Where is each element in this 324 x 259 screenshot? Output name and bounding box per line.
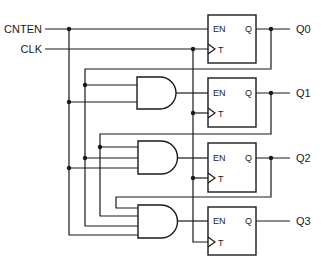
q-pin-label: Q [245, 24, 252, 34]
q-pin-label: Q [245, 88, 252, 98]
flipflop-2: EN Q T [208, 143, 290, 192]
junction-dot [83, 156, 87, 160]
junction-dot [269, 91, 273, 95]
flipflop-3: EN Q T [208, 207, 290, 255]
en-pin-label: EN [213, 216, 226, 226]
junction-dot [67, 166, 71, 170]
output-label-q2: Q2 [296, 152, 311, 164]
junction-dot [191, 176, 195, 180]
input-label-cnten: CNTEN [4, 23, 42, 35]
flipflop-1: EN Q T [208, 78, 290, 127]
and-gate-3 [138, 205, 208, 238]
and-gate-2 [138, 141, 208, 174]
t-pin-label: T [218, 45, 224, 55]
junction-dot [67, 27, 71, 31]
junction-dot [269, 156, 273, 160]
junction-dot [67, 100, 71, 104]
junction-dot [269, 27, 273, 31]
junction-dot [191, 111, 195, 115]
junction-dot [83, 83, 87, 87]
t-pin-label: T [218, 174, 224, 184]
en-pin-label: EN [213, 153, 226, 163]
output-label-q1: Q1 [296, 87, 311, 99]
and-gate-1 [137, 77, 208, 109]
output-label-q0: Q0 [296, 23, 311, 35]
cnten-net [45, 27, 208, 235]
junction-dot [98, 145, 102, 149]
en-pin-label: EN [213, 88, 226, 98]
output-label-q3: Q3 [296, 215, 311, 227]
q-pin-label: Q [245, 216, 252, 226]
en-pin-label: EN [213, 24, 226, 34]
input-label-clk: CLK [21, 43, 43, 55]
t-pin-label: T [218, 238, 224, 248]
counter-schematic: CNTEN CLK [0, 0, 324, 259]
t-pin-label: T [218, 109, 224, 119]
junction-dot [191, 47, 195, 51]
q-pin-label: Q [245, 153, 252, 163]
flipflop-0: EN Q T [208, 15, 290, 63]
